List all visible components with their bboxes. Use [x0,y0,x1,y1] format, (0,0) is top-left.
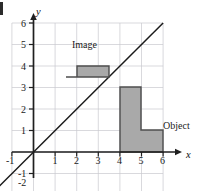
object-shape [120,87,163,152]
x-tick-label-1: 1 [53,156,58,166]
x-tick-label-neg1: -1 [6,156,14,166]
y-tick-label-4: 4 [21,62,26,72]
image-shape [66,66,109,77]
x-axis-label: x [186,150,191,161]
y-tick-label-2: 2 [21,105,26,115]
y-axis-label: y [36,7,41,18]
y-tick-label-neg2: -2 [18,178,26,188]
y-tick-label-1: 1 [21,126,26,136]
x-tick-label-5: 5 [139,156,144,166]
x-tick-label-3: 3 [96,156,101,166]
y-tick-label-6: 6 [21,19,26,29]
y-tick-label-3: 3 [21,83,26,93]
coordinate-plane [0,0,204,191]
reflection-graph-figure: -1 1 2 3 4 5 6 6 5 4 3 2 1 -1 -2 x y Ima… [0,0,204,191]
x-tick-label-6: 6 [160,156,165,166]
x-tick-label-2: 2 [74,156,79,166]
object-shape-label: Object [163,121,190,131]
y-tick-label-5: 5 [21,40,26,50]
image-shape-label: Image [72,40,97,50]
x-tick-label-4: 4 [117,156,122,166]
x-axis-arrowhead [175,149,182,156]
